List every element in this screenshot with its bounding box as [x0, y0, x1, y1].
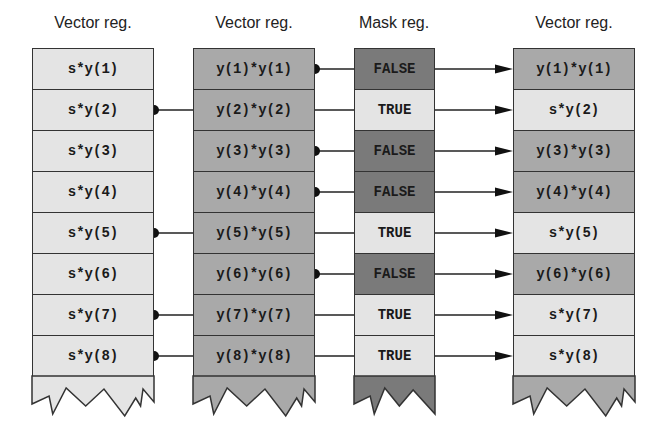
connector-overlay	[0, 0, 659, 431]
connector-dot-icon	[154, 310, 159, 320]
arrowhead-icon	[495, 229, 513, 238]
register-tail-zigzag	[32, 376, 154, 416]
arrowhead-icon	[495, 311, 513, 320]
connector-dot-icon	[315, 269, 320, 279]
register-tail-zigzag	[354, 376, 435, 414]
connector-dot-icon	[315, 146, 320, 156]
arrowhead-icon	[495, 147, 513, 156]
connector-dot-icon	[154, 351, 159, 361]
connector-dot-icon	[154, 105, 159, 115]
arrowhead-icon	[495, 270, 513, 279]
register-tail-zigzag	[513, 376, 635, 416]
connector-dot-icon	[315, 64, 320, 74]
connector-dot-icon	[315, 187, 320, 197]
connector-dot-icon	[154, 228, 159, 238]
arrowhead-icon	[495, 188, 513, 197]
arrowhead-icon	[495, 106, 513, 115]
arrowhead-icon	[495, 352, 513, 361]
register-tail-zigzag	[193, 376, 315, 416]
arrowhead-icon	[495, 65, 513, 74]
